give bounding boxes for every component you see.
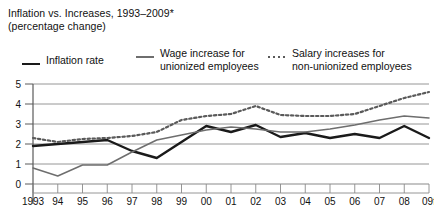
- x-tick-label: 1993: [22, 196, 45, 207]
- solid-thick-line-icon: [22, 58, 40, 70]
- series-lines: [33, 92, 429, 176]
- x-tick-label: 97: [126, 196, 138, 207]
- page-title: Inflation vs. Increases, 1993–2009*: [8, 7, 174, 20]
- legend-item-label: Salary increases for non-unionized emplo…: [292, 47, 412, 72]
- y-tick-label: 2: [15, 139, 21, 150]
- series-line: [33, 116, 429, 176]
- legend-label-line1: Inflation rate: [46, 54, 104, 67]
- legend-item-wage-increase: Wage increase for unionized employees: [136, 47, 259, 72]
- gridlines: [33, 84, 429, 184]
- x-tick-label: 96: [102, 196, 114, 207]
- chart-plot-area: 543210 199394959697989900010203040506070…: [0, 80, 434, 223]
- legend-item-inflation-rate: Inflation rate: [22, 54, 104, 70]
- x-tick-label: 02: [250, 196, 262, 207]
- y-tick-label: 4: [15, 99, 21, 110]
- chart-figure: Inflation vs. Increases, 1993–2009* (per…: [0, 0, 434, 223]
- x-tick-label: 09f: [422, 196, 434, 207]
- legend-label-line1: Wage increase for: [160, 47, 259, 60]
- chart-title-block: Inflation vs. Increases, 1993–2009* (per…: [8, 7, 174, 33]
- x-tick-label: 08: [399, 196, 411, 207]
- x-tick-label: 99: [176, 196, 188, 207]
- y-tick-label: 3: [15, 119, 21, 130]
- y-tick-labels: 543210: [15, 79, 33, 190]
- legend-label-line1: Salary increases for: [292, 47, 412, 60]
- y-tick-label: 0: [15, 179, 21, 190]
- x-tick-label: 04: [300, 196, 312, 207]
- series-line: [33, 125, 429, 158]
- chart-subtitle: (percentage change): [8, 20, 174, 33]
- legend-item-salary-increases: Salary increases for non-unionized emplo…: [268, 47, 412, 72]
- chart-legend: Inflation rate Wage increase for unioniz…: [0, 47, 434, 77]
- legend-item-label: Inflation rate: [46, 54, 104, 67]
- x-tick-label: 03: [275, 196, 287, 207]
- x-tick-marks: [33, 184, 429, 193]
- x-tick-label: 07: [374, 196, 386, 207]
- solid-thin-line-icon: [136, 51, 154, 63]
- legend-label-line2: unionized employees: [160, 60, 259, 73]
- x-tick-label: 01: [225, 196, 237, 207]
- x-tick-label: 98: [151, 196, 163, 207]
- legend-label-line2: non-unionized employees: [292, 60, 412, 73]
- x-tick-label: 00: [201, 196, 213, 207]
- x-tick-labels: 199394959697989900010203040506070809f: [22, 196, 434, 207]
- dotted-line-icon: [268, 51, 286, 63]
- x-tick-label: 95: [77, 196, 89, 207]
- y-tick-label: 1: [15, 159, 21, 170]
- x-tick-label: 94: [52, 196, 64, 207]
- y-tick-label: 5: [15, 79, 21, 90]
- x-tick-label: 06: [349, 196, 361, 207]
- line-chart-svg: 543210 199394959697989900010203040506070…: [0, 80, 434, 223]
- legend-item-label: Wage increase for unionized employees: [160, 47, 259, 72]
- series-line: [33, 92, 429, 142]
- x-tick-label: 05: [324, 196, 336, 207]
